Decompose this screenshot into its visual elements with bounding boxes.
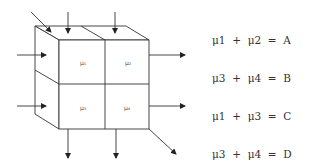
cell-mu4-label: μ₄	[124, 104, 131, 112]
equation-c: μ1 + μ3 = C	[212, 110, 292, 123]
cell-mu2-label: μ₂	[125, 59, 132, 67]
equation-b: μ3 + μ4 = B	[212, 72, 292, 85]
cell-mu3-label: μ₃	[80, 104, 87, 112]
cell-mu1-label: μ₁	[80, 59, 87, 67]
equation-d: μ3 + μ4 = D	[212, 148, 292, 161]
equation-list: μ1 + μ2 = A μ3 + μ4 = B μ1 + μ3 = C μ3 +…	[212, 9, 292, 168]
equation-a: μ1 + μ2 = A	[212, 34, 292, 47]
cube-front-face	[59, 40, 149, 129]
arrow-out-diagonal-icon	[149, 129, 176, 154]
cube-diagram: μ₁ μ₂ μ₃ μ₄	[0, 0, 200, 168]
